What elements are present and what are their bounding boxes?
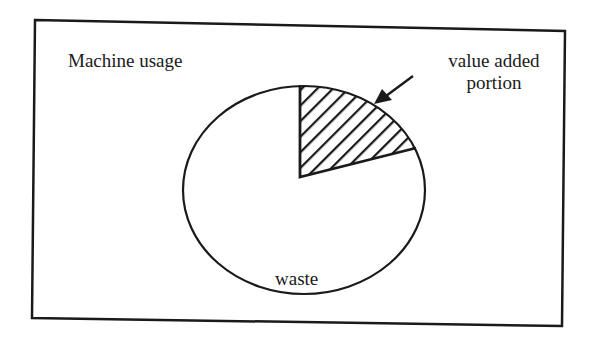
- machine-usage-diagram: Machine usage value added portion waste: [0, 0, 594, 344]
- callout-line-2: portion: [430, 72, 558, 94]
- callout-arrow-icon: [374, 76, 413, 104]
- value-added-callout: value added portion: [430, 50, 558, 94]
- diagram-title: Machine usage: [68, 50, 182, 72]
- waste-label: waste: [275, 268, 318, 290]
- callout-line-1: value added: [430, 50, 558, 72]
